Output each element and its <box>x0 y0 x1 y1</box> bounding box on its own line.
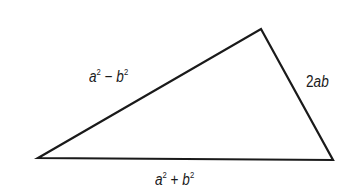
operator: + <box>171 171 179 188</box>
exponent: 2 <box>163 170 167 180</box>
exponent: 2 <box>124 67 128 77</box>
side-label-bottom: a2 + b2 <box>155 170 194 189</box>
side-label-right: 2ab <box>306 73 329 91</box>
vars-ab: ab <box>314 73 329 90</box>
exponent: 2 <box>97 67 101 77</box>
coefficient: 2 <box>306 73 314 90</box>
triangle <box>38 29 333 160</box>
operator: − <box>105 68 113 85</box>
var-a: a <box>89 68 97 85</box>
var-a: a <box>155 171 163 188</box>
triangle-diagram <box>0 0 353 192</box>
var-b: b <box>116 68 124 85</box>
var-b: b <box>182 171 190 188</box>
side-label-left: a2 − b2 <box>89 67 128 86</box>
exponent: 2 <box>190 170 194 180</box>
